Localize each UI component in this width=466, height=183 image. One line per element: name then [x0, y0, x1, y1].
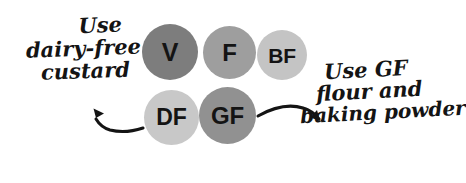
- badge-freezable-label: F: [222, 41, 236, 65]
- annotation-left-line3: custard: [0, 58, 130, 85]
- badge-batch-friendly-label: BF: [268, 45, 296, 66]
- badge-vegan-label: V: [162, 40, 178, 65]
- annotation-left: Use dairy-free custard: [6, 16, 140, 83]
- badge-dairy-free-label: DF: [156, 106, 186, 129]
- badge-gluten-free[interactable]: GF: [199, 87, 256, 144]
- badge-vegan[interactable]: V: [142, 24, 198, 80]
- badge-freezable[interactable]: F: [203, 26, 256, 79]
- annotation-right-line3: baking powder: [300, 99, 427, 127]
- badge-gluten-free-label: GF: [211, 104, 244, 128]
- curved-arrow-left: [94, 109, 144, 132]
- annotation-right: Use GF flour and baking powder: [318, 58, 444, 124]
- badge-dairy-free[interactable]: DF: [144, 90, 199, 145]
- badge-batch-friendly[interactable]: BF: [257, 30, 307, 80]
